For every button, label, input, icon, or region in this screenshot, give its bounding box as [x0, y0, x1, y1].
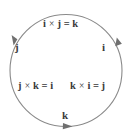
- node-label-i: i: [102, 42, 105, 53]
- equation-lower-left-right-operand: k: [33, 80, 39, 91]
- equation-lower-right: k × i = j: [70, 81, 105, 92]
- equation-top-left-operand: i: [43, 18, 46, 29]
- equals-icon: =: [42, 80, 48, 91]
- equals-icon: =: [93, 80, 99, 91]
- arrow-bottom-icon: [63, 123, 73, 129]
- equation-lower-right-right-operand: i: [87, 80, 90, 91]
- equation-lower-right-result: j: [102, 80, 106, 91]
- node-label-j: j: [15, 42, 19, 53]
- equation-top-result: k: [72, 18, 78, 29]
- node-label-k: k: [62, 110, 68, 121]
- equation-top: i × j = k: [43, 19, 78, 30]
- multiply-icon: ×: [24, 81, 30, 91]
- multiply-icon: ×: [78, 81, 84, 91]
- arrow-right-icon: [115, 38, 122, 47]
- equation-lower-left-result: i: [50, 80, 53, 91]
- equation-lower-right-left-operand: k: [70, 80, 76, 91]
- equation-lower-left: j × k = i: [18, 81, 53, 92]
- quaternion-cycle-diagram: j i k i × j = k j × k = i k × i = j: [0, 0, 131, 133]
- equals-icon: =: [64, 18, 70, 29]
- equation-top-right-operand: j: [58, 18, 62, 29]
- multiply-icon: ×: [49, 19, 55, 29]
- equation-lower-left-left-operand: j: [18, 80, 22, 91]
